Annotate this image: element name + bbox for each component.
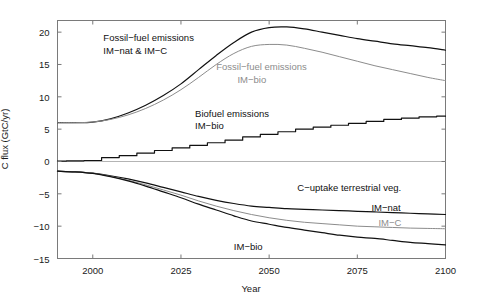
series-annotation: Biofuel emissions	[195, 107, 269, 120]
chart-figure: C flux (GtC/yr) Year −15−10−505101520 20…	[0, 0, 477, 308]
series-annotation: Fossil−fuel emissions	[216, 60, 307, 73]
y-tick-label: −15	[0, 253, 50, 264]
series-annotation: IM−bio	[234, 240, 263, 253]
series-line-2	[58, 116, 446, 161]
series-annotation: IM−bio	[195, 119, 224, 132]
x-tick-label: 2075	[347, 265, 368, 276]
x-tick-label: 2050	[259, 265, 280, 276]
y-tick-label: 0	[0, 156, 50, 167]
y-tick-label: 15	[0, 59, 50, 70]
x-tick-label: 2100	[435, 265, 456, 276]
y-tick-label: 10	[0, 91, 50, 102]
x-tick-label: 2025	[170, 265, 191, 276]
series-annotation: IM−nat & IM−C	[103, 44, 167, 57]
series-annotation: IM−nat	[371, 201, 400, 214]
plot-canvas	[0, 0, 477, 308]
y-tick-label: −10	[0, 221, 50, 232]
x-axis-title: Year	[241, 283, 260, 294]
y-tick-label: 5	[0, 124, 50, 135]
y-tick-label: −5	[0, 188, 50, 199]
series-annotation: Fossil−fuel emissions	[103, 31, 194, 44]
series-annotation: IM−bio	[237, 73, 266, 86]
y-tick-label: 20	[0, 27, 50, 38]
series-annotation: IM−C	[378, 216, 401, 229]
x-tick-label: 2000	[82, 265, 103, 276]
series-annotation: C−uptake terrestrial veg.	[297, 181, 401, 194]
